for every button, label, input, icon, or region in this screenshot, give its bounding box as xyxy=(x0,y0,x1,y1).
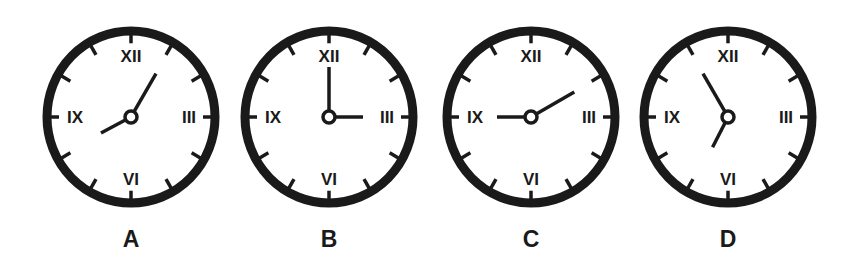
numeral-xii: XII xyxy=(521,47,542,66)
numeral-ix: IX xyxy=(664,108,681,127)
numeral-iii: III xyxy=(582,108,596,127)
numeral-iii: III xyxy=(182,108,196,127)
center-pin xyxy=(722,111,734,123)
numeral-xii: XII xyxy=(121,47,142,66)
numeral-xii: XII xyxy=(718,47,739,66)
clock-label-a: A xyxy=(111,226,151,253)
clock-label-b: B xyxy=(309,226,349,253)
numeral-vi: VI xyxy=(523,170,539,189)
numeral-vi: VI xyxy=(321,170,337,189)
numeral-vi: VI xyxy=(720,170,736,189)
numeral-ix: IX xyxy=(67,108,84,127)
clock-label-c: C xyxy=(511,226,551,253)
numeral-iii: III xyxy=(380,108,394,127)
clock-c: XIIIIIVIIX xyxy=(447,31,615,203)
numeral-ix: IX xyxy=(265,108,282,127)
clock-d: XIIIIIVIIX xyxy=(644,31,812,203)
numeral-xii: XII xyxy=(319,47,340,66)
clock-b: XIIIIIVIIX xyxy=(245,31,413,203)
numeral-iii: III xyxy=(779,108,793,127)
center-pin xyxy=(525,111,537,123)
center-pin xyxy=(125,111,137,123)
clock-label-d: D xyxy=(708,226,748,253)
numeral-vi: VI xyxy=(123,170,139,189)
center-pin xyxy=(323,111,335,123)
clock-a: XIIIIIVIIX xyxy=(47,31,215,203)
numeral-ix: IX xyxy=(467,108,484,127)
